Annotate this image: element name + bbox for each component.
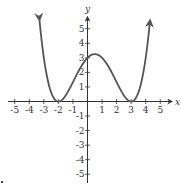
x-tick-label: 1 (99, 105, 105, 115)
y-tick-label: 5 (79, 24, 85, 34)
x-tick-label: 2 (114, 105, 120, 115)
x-axis-label: x (175, 97, 180, 107)
y-tick-label: -1 (76, 111, 85, 121)
function-graph: x y -5-4-3-2-112345 -5-4-3-2-112345 (0, 0, 181, 187)
y-tick-label: -5 (76, 169, 85, 179)
y-tick-label: -4 (76, 155, 85, 165)
y-axis-label: y (84, 4, 91, 14)
x-tick-label: -4 (25, 105, 34, 115)
x-tick-label: 3 (128, 105, 134, 115)
x-tick-label: -3 (39, 105, 48, 115)
x-tick-label: -2 (54, 105, 63, 115)
y-tick-label: 1 (79, 82, 85, 92)
x-tick-label: 4 (143, 105, 149, 115)
stray-dot (1, 181, 3, 183)
y-tick-label: -3 (76, 140, 85, 150)
x-tick-label: 5 (157, 105, 163, 115)
function-curve (39, 20, 150, 101)
y-tick-label: 4 (79, 38, 85, 48)
x-tick-label: -5 (10, 105, 19, 115)
y-tick-label: -2 (76, 126, 85, 136)
